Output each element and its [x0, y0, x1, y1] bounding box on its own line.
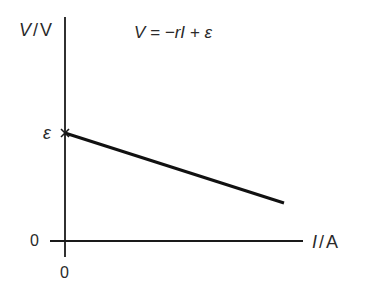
y-origin-zero-label: 0	[30, 233, 39, 249]
data-line	[65, 133, 284, 203]
x-origin-zero-label: 0	[60, 265, 69, 281]
y-intercept-epsilon-label: ε	[43, 124, 51, 142]
x-axis-label: I/A	[312, 233, 338, 251]
y-axis-label: V/V	[19, 21, 52, 39]
equation-label: V = −rI + ε	[134, 24, 212, 41]
chart-canvas	[0, 0, 370, 300]
